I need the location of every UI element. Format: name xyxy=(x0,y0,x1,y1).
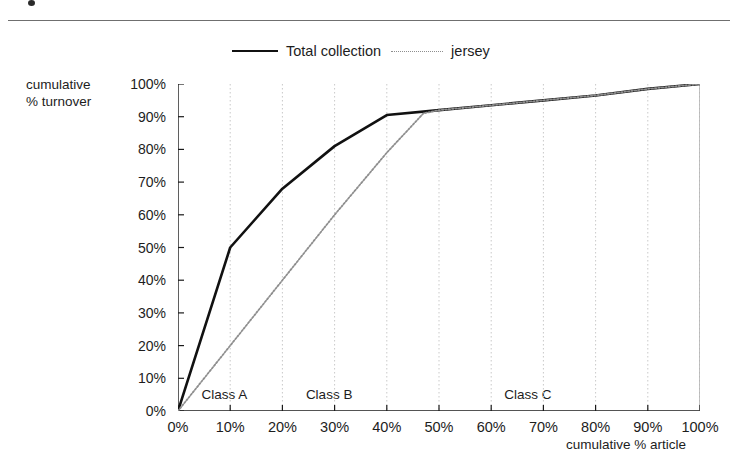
plot-area xyxy=(178,84,700,411)
page-artifact-mark xyxy=(28,0,35,6)
header-divider xyxy=(8,20,730,21)
legend-item-jersey: jersey xyxy=(391,43,490,59)
chart-svg xyxy=(178,84,700,411)
x-tick-label: 60% xyxy=(477,419,506,435)
y-tick-label: 70% xyxy=(138,174,166,190)
y-tick-label: 60% xyxy=(138,207,166,223)
x-tick-label: 90% xyxy=(633,419,662,435)
x-tick-label: 80% xyxy=(581,419,610,435)
x-tick-label: 50% xyxy=(424,419,453,435)
x-tick-label: 30% xyxy=(320,419,349,435)
chart-legend: Total collection jersey xyxy=(232,40,522,62)
legend-swatch-solid-line-icon xyxy=(232,50,278,52)
y-axis-title: cumulative % turnover xyxy=(26,76,130,110)
y-tick-label: 30% xyxy=(138,305,166,321)
x-tick-label: 100% xyxy=(681,419,718,435)
y-tick-label: 50% xyxy=(138,240,166,256)
y-tick-label: 80% xyxy=(138,141,166,157)
y-tick-label: 0% xyxy=(146,403,166,419)
x-tick-label: 0% xyxy=(168,419,189,435)
y-tick-label: 90% xyxy=(138,109,166,125)
legend-label-total-collection: Total collection xyxy=(286,43,381,59)
legend-item-total-collection: Total collection xyxy=(232,43,381,59)
y-tick-label: 100% xyxy=(130,76,166,92)
x-tick-label: 20% xyxy=(268,419,297,435)
x-axis-title: cumulative % article xyxy=(566,437,686,452)
legend-swatch-dotted-line-icon xyxy=(391,51,443,52)
y-axis-title-line-2: % turnover xyxy=(26,93,130,110)
figure-container: Total collection jersey cumulative % tur… xyxy=(0,0,738,467)
legend-label-jersey: jersey xyxy=(451,43,490,59)
x-tick-label: 70% xyxy=(529,419,558,435)
x-tick-label: 40% xyxy=(372,419,401,435)
y-tick-label: 10% xyxy=(138,370,166,386)
y-tick-label: 40% xyxy=(138,272,166,288)
y-axis-title-line-1: cumulative xyxy=(26,76,130,93)
x-tick-label: 10% xyxy=(216,419,245,435)
y-tick-label: 20% xyxy=(138,338,166,354)
